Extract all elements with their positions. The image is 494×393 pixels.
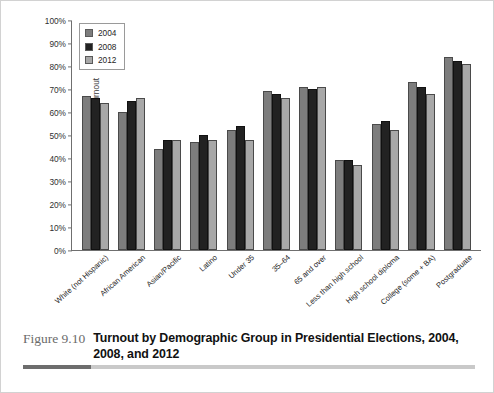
- y-tick-20: 20%: [49, 200, 72, 210]
- legend-swatch-2012: [85, 56, 93, 64]
- bar: [245, 140, 254, 250]
- caption-rule: [23, 365, 475, 369]
- bar: [136, 98, 145, 250]
- bar: [100, 103, 109, 250]
- figure-caption: Figure 9.10 Turnout by Demographic Group…: [23, 331, 475, 362]
- legend-swatch-2004: [85, 29, 93, 37]
- bar-group: [295, 21, 331, 250]
- y-tick-50: 50%: [49, 131, 72, 141]
- bar: [317, 87, 326, 250]
- bar: [154, 149, 163, 250]
- x-axis-labels: White (not Hispanic)African AmericanAsia…: [71, 253, 481, 319]
- chart-figure: Percentage turnout 100%90%80%70%60%50%40…: [9, 7, 487, 319]
- bar: [281, 98, 290, 250]
- bar: [236, 126, 245, 250]
- x-axis-label: 35–64: [270, 253, 292, 274]
- bar: [344, 160, 353, 250]
- bar: [127, 101, 136, 251]
- caption-rule-accent: [23, 365, 91, 369]
- y-tick-100: 100%: [45, 16, 72, 26]
- plot-area: [72, 21, 481, 250]
- bar-group: [258, 21, 294, 250]
- legend-label-2004: 2004: [98, 28, 116, 38]
- bar: [227, 130, 236, 250]
- bar: [82, 96, 91, 250]
- y-tick-60: 60%: [49, 108, 72, 118]
- y-tick-70: 70%: [49, 85, 72, 95]
- x-axis-label: 65 and over: [293, 253, 329, 287]
- y-tick-0: 0%: [54, 246, 72, 256]
- y-tick-10: 10%: [49, 223, 72, 233]
- bar: [172, 140, 181, 250]
- bar-group: [186, 21, 222, 250]
- x-axis-label: Asian/Pacific: [145, 253, 183, 289]
- bar: [426, 94, 435, 250]
- bar: [163, 140, 172, 250]
- bar: [299, 87, 308, 250]
- bar-group: [440, 21, 476, 250]
- bar: [381, 121, 390, 250]
- bar: [390, 130, 399, 250]
- bar: [372, 124, 381, 251]
- bar: [263, 91, 272, 250]
- bar-group: [331, 21, 367, 250]
- legend-label-2008: 2008: [98, 42, 116, 52]
- bar: [199, 135, 208, 250]
- x-axis-label: White (not Hispanic): [53, 253, 110, 305]
- x-axis-label: Under 35: [226, 253, 255, 281]
- y-tick-30: 30%: [49, 177, 72, 187]
- bar: [462, 64, 471, 250]
- legend-item-2012: 2012: [85, 55, 116, 65]
- legend-item-2004: 2004: [85, 28, 116, 38]
- figure-number: Figure 9.10: [23, 331, 85, 347]
- plot-frame: Percentage turnout 100%90%80%70%60%50%40…: [71, 21, 481, 251]
- bar-group: [367, 21, 403, 250]
- legend-item-2008: 2008: [85, 42, 116, 52]
- bar-group: [403, 21, 439, 250]
- bar-group: [150, 21, 186, 250]
- y-tick-90: 90%: [49, 39, 72, 49]
- legend-label-2012: 2012: [98, 55, 116, 65]
- x-axis-label: Postgraduate: [434, 253, 474, 290]
- bar: [453, 61, 462, 250]
- bar: [308, 89, 317, 250]
- bar: [335, 160, 344, 250]
- bar-group: [222, 21, 258, 250]
- y-tick-80: 80%: [49, 62, 72, 72]
- figure-title: Turnout by Demographic Group in Presiden…: [93, 331, 475, 362]
- bar: [91, 98, 100, 250]
- bar: [190, 142, 199, 250]
- figure-page: Percentage turnout 100%90%80%70%60%50%40…: [0, 0, 494, 393]
- bar: [417, 87, 426, 250]
- bar: [444, 57, 453, 250]
- bar: [208, 140, 217, 250]
- x-axis-label: Latino: [198, 253, 219, 274]
- y-tick-mark: [68, 250, 72, 251]
- bar: [272, 94, 281, 250]
- legend-swatch-2008: [85, 43, 93, 51]
- bar: [408, 82, 417, 250]
- y-tick-40: 40%: [49, 154, 72, 164]
- bar: [118, 112, 127, 250]
- bar: [353, 165, 362, 250]
- chart-legend: 2004 2008 2012: [79, 23, 125, 70]
- bar-groups: [72, 21, 481, 250]
